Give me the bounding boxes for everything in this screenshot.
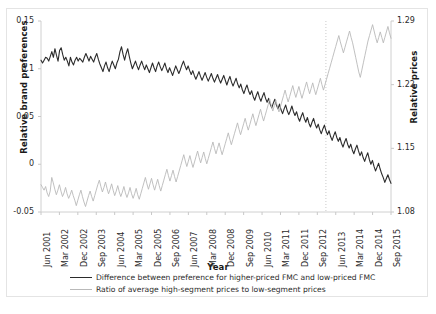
x-axis-tick-label: Sep 2009 [247, 229, 255, 267]
y-axis-left-tick-label: 0.15 [0, 17, 34, 25]
y-axis-right-tick-label: 1.08 [397, 208, 433, 216]
x-axis-tick-label: Sep 2003 [99, 229, 107, 267]
y-axis-right-tick-label: 1.29 [397, 17, 433, 25]
legend-item: Difference between preference for higher… [70, 272, 370, 283]
x-axis-tick-label: Jun 2001 [44, 232, 52, 267]
chart-legend: Difference between preference for higher… [70, 272, 370, 296]
legend-label: Difference between preference for higher… [96, 273, 375, 282]
y-axis-left-title: Relative brand preferences [19, 17, 29, 157]
legend-line-swatch-dark [70, 277, 92, 278]
x-axis-tick-label: Mar 2002 [62, 229, 70, 267]
y-axis-left-tick-label: 0.1 [0, 65, 34, 73]
y-axis-left-tick-label: 0 [0, 160, 34, 168]
x-axis-tick-label: Jun 2004 [118, 232, 126, 267]
x-axis-tick-label: Dec 2005 [155, 229, 163, 267]
x-axis-tick-label: Mar 2011 [283, 229, 291, 267]
y-axis-right-tick-label: 1.15 [397, 144, 433, 152]
x-axis-tick-label: Dec 2014 [376, 229, 384, 267]
plot-area: Relative brand preferences Relative pric… [0, 0, 436, 314]
x-axis-tick-label: Sep 2015 [394, 229, 402, 267]
legend-item: Ratio of average high-segment prices to … [70, 284, 370, 295]
x-axis-tick-label: Dec 2008 [228, 229, 236, 267]
x-axis-tick-label: Sep 2012 [320, 229, 328, 267]
x-axis-tick-label: Jun 2013 [339, 232, 347, 267]
legend-line-swatch-light [70, 289, 92, 290]
x-axis-tick-label: Jun 2007 [191, 232, 199, 267]
x-axis-tick-label: Dec 2011 [302, 229, 310, 267]
x-axis-tick-label: Mar 2014 [357, 229, 365, 267]
y-axis-right-tick-label: 1.22 [397, 81, 433, 89]
x-axis-tick-label: Mar 2008 [210, 229, 218, 267]
x-axis-tick-label: Dec 2002 [81, 229, 89, 267]
chart-figure: Relative brand preferences Relative pric… [0, 0, 436, 314]
y-axis-left-tick-label: -0.05 [0, 208, 34, 216]
y-axis-left-tick-label: 0.05 [0, 113, 34, 121]
x-axis-tick-label: Mar 2005 [136, 229, 144, 267]
x-axis-tick-label: Sep 2006 [173, 229, 181, 267]
x-axis-tick-label: Jun 2010 [265, 232, 273, 267]
legend-label: Ratio of average high-segment prices to … [96, 285, 326, 294]
